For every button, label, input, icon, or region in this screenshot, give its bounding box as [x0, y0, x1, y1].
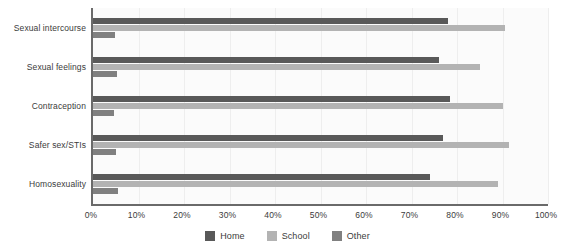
bar-group	[93, 174, 548, 194]
x-axis-tick-label: 30%	[219, 210, 236, 220]
plot-area	[91, 8, 548, 206]
bar-home	[93, 57, 439, 63]
bar-group	[93, 135, 548, 155]
x-axis-tick-label: 50%	[310, 210, 327, 220]
x-axis-tick-label: 60%	[355, 210, 372, 220]
bar-group	[93, 57, 548, 77]
x-axis-labels: 0%10%20%30%40%50%60%70%80%90%100%	[91, 210, 546, 224]
bar-chart: Sexual intercourseSexual feelingsContrac…	[0, 0, 575, 249]
bar-other	[93, 110, 114, 116]
x-axis-tick-label: 10%	[128, 210, 145, 220]
y-axis-label: Homosexuality	[0, 179, 86, 189]
bar-home	[93, 135, 443, 141]
legend-item-home[interactable]: Home	[205, 231, 244, 241]
chart-legend: HomeSchoolOther	[0, 231, 575, 241]
bars-layer	[93, 8, 548, 204]
bar-school	[93, 25, 505, 31]
x-axis-tick-label: 90%	[492, 210, 509, 220]
bar-home	[93, 18, 448, 24]
legend-item-school[interactable]: School	[267, 231, 310, 241]
bar-other	[93, 149, 116, 155]
y-axis-labels: Sexual intercourseSexual feelingsContrac…	[0, 8, 86, 204]
legend-swatch-school	[267, 231, 277, 241]
x-axis-tick-label: 70%	[401, 210, 418, 220]
bar-home	[93, 96, 450, 102]
bar-school	[93, 64, 480, 70]
y-axis-label: Sexual feelings	[0, 62, 86, 72]
legend-label-other: Other	[347, 231, 370, 241]
bar-home	[93, 174, 430, 180]
legend-swatch-other	[332, 231, 342, 241]
bar-school	[93, 142, 509, 148]
y-axis-label: Sexual intercourse	[0, 23, 86, 33]
legend-swatch-home	[205, 231, 215, 241]
gridline	[548, 8, 549, 204]
bar-school	[93, 181, 498, 187]
bar-other	[93, 71, 117, 77]
bar-other	[93, 32, 115, 38]
legend-label-school: School	[282, 231, 310, 241]
bar-other	[93, 188, 118, 194]
bar-school	[93, 103, 503, 109]
bar-group	[93, 18, 548, 38]
y-axis-label: Contraception	[0, 101, 86, 111]
x-axis-tick-label: 40%	[264, 210, 281, 220]
legend-label-home: Home	[220, 231, 244, 241]
x-axis-tick-label: 100%	[535, 210, 557, 220]
x-axis-tick-label: 20%	[173, 210, 190, 220]
bar-group	[93, 96, 548, 116]
x-axis-tick-label: 0%	[85, 210, 98, 220]
y-axis-label: Safer sex/STIs	[0, 140, 86, 150]
legend-item-other[interactable]: Other	[332, 231, 370, 241]
x-axis-tick-label: 80%	[446, 210, 463, 220]
